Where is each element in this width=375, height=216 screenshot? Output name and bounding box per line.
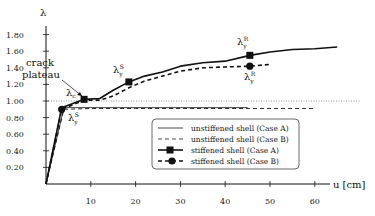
y-axis-label: λ xyxy=(40,7,47,18)
svg-text:λyS: λyS xyxy=(113,63,124,78)
svg-text:plateau: plateau xyxy=(22,69,60,80)
y-tick-label: 0.40 xyxy=(6,147,24,156)
x-tick-label: 60 xyxy=(310,197,320,206)
x-axis-label: u [cm] xyxy=(333,179,366,190)
svg-text:λyR: λyR xyxy=(237,35,249,50)
chart: 0.200.400.600.801.001.201.401.601.80 102… xyxy=(0,0,375,216)
y-axis: 0.200.400.600.801.001.201.401.601.80 xyxy=(6,26,49,184)
annotation-crack-plateau: crack plateau xyxy=(22,57,82,96)
annotation-lambda-y-r-bottom: λyR xyxy=(244,70,256,85)
legend: unstiffened shell (Case A) unstiffened s… xyxy=(152,119,299,169)
y-tick-label: 1.60 xyxy=(6,47,24,56)
x-axis: 102030405060 xyxy=(46,181,330,206)
annotation-lambda-c: λc xyxy=(66,87,76,99)
circle-marker xyxy=(246,63,253,70)
y-tick-label: 1.20 xyxy=(6,80,24,89)
y-tick-label: 0.60 xyxy=(6,130,24,139)
x-tick-label: 20 xyxy=(131,197,141,206)
annotation-lambda-y-s-high: λyS xyxy=(113,63,124,78)
svg-text:λyS: λyS xyxy=(68,111,79,126)
svg-text:λc: λc xyxy=(66,87,76,99)
svg-text:crack: crack xyxy=(26,57,55,68)
annotation-lambda-y-s-low: λyS xyxy=(68,111,79,126)
svg-text:stiffened shell (Case B): stiffened shell (Case B) xyxy=(191,157,279,166)
square-marker xyxy=(246,52,253,59)
y-tick-label: 0.20 xyxy=(6,163,24,172)
svg-text:stiffened shell (Case A): stiffened shell (Case A) xyxy=(191,146,279,155)
square-marker xyxy=(125,78,132,85)
x-tick-label: 50 xyxy=(265,197,275,206)
x-tick-label: 40 xyxy=(220,197,230,206)
y-tick-label: 1.80 xyxy=(6,31,24,40)
svg-text:λyR: λyR xyxy=(244,70,256,85)
y-tick-label: 0.80 xyxy=(6,114,24,123)
svg-text:unstiffened shell (Case A): unstiffened shell (Case A) xyxy=(191,124,289,133)
circle-marker xyxy=(58,106,65,113)
annotation-lambda-y-r-top: λyR xyxy=(237,35,249,50)
square-marker xyxy=(81,96,88,103)
x-tick-label: 10 xyxy=(86,197,96,206)
svg-text:unstiffened shell (Case B): unstiffened shell (Case B) xyxy=(191,135,289,144)
y-tick-label: 1.00 xyxy=(6,97,24,106)
x-tick-label: 30 xyxy=(175,197,185,206)
